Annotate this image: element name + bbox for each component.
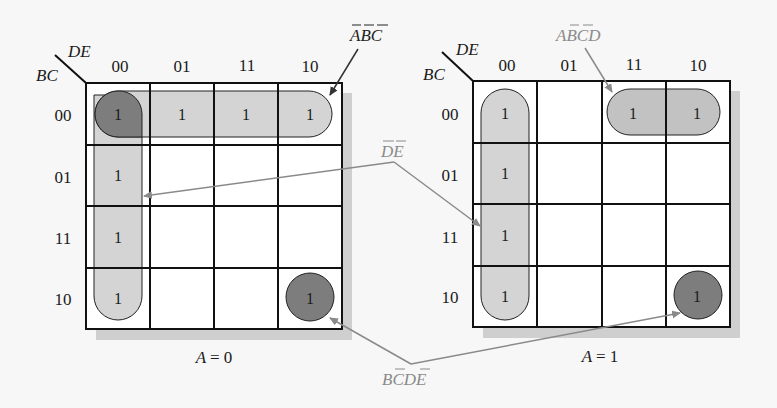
kmap-a1: DE BC 00 01 11 10 00 01 11 10 1 1 1 1 1 … xyxy=(423,40,740,366)
row-header: 10 xyxy=(442,288,459,307)
cell: 1 xyxy=(501,105,509,122)
cell: 1 xyxy=(306,106,314,123)
map-title: A= 0 xyxy=(195,348,233,367)
col-header: 10 xyxy=(302,57,319,76)
col-header: 11 xyxy=(626,55,642,74)
map-title-val: = 0 xyxy=(210,348,232,367)
cell: 1 xyxy=(242,106,250,123)
cell: 1 xyxy=(501,165,509,182)
col-header: 00 xyxy=(112,57,129,76)
column-var-label: DE xyxy=(455,40,479,59)
karnaugh-map-diagram: DE BC 00 01 11 10 00 01 11 10 1 1 1 1 1 … xyxy=(0,0,777,408)
col-header: 01 xyxy=(174,57,191,76)
cell: 1 xyxy=(501,227,509,244)
row-header: 10 xyxy=(55,290,72,309)
cell: 1 xyxy=(306,290,314,307)
map-title-val: = 1 xyxy=(596,347,618,366)
map-title-var: A xyxy=(581,347,593,366)
arrow xyxy=(330,49,358,95)
cell: 1 xyxy=(178,106,186,123)
row-header: 00 xyxy=(442,105,459,124)
column-var-label: DE xyxy=(67,42,91,61)
cell: 1 xyxy=(114,229,122,246)
row-header: 11 xyxy=(55,229,71,248)
col-header: 00 xyxy=(499,56,516,75)
term-label: ABCD xyxy=(555,26,601,45)
col-header: 01 xyxy=(561,56,578,75)
row-header: 11 xyxy=(442,228,458,247)
cell: 1 xyxy=(114,290,122,307)
cell: 1 xyxy=(629,105,637,122)
row-var-label: BC xyxy=(423,65,445,84)
col-header: 10 xyxy=(690,56,707,75)
term-label: ABC xyxy=(349,26,383,45)
cell: 1 xyxy=(114,106,122,123)
group-row00-cols-11-10 xyxy=(607,89,720,135)
cell: 1 xyxy=(501,288,509,305)
row-var-label: BC xyxy=(36,66,58,85)
arrow-left xyxy=(330,318,411,364)
row-header: 01 xyxy=(55,168,72,187)
term-label: BCDE xyxy=(382,370,427,389)
row-header: 01 xyxy=(442,166,459,185)
col-header: 11 xyxy=(239,56,255,75)
kmap-a0: DE BC 00 01 11 10 00 01 11 10 1 1 1 1 1 … xyxy=(36,42,352,367)
cell: 1 xyxy=(114,167,122,184)
cell: 1 xyxy=(693,288,701,305)
map-title-var: A xyxy=(195,348,207,367)
term-label: DE xyxy=(380,142,404,161)
arrow-right xyxy=(394,162,480,226)
map-title: A= 1 xyxy=(581,347,619,366)
cell: 1 xyxy=(693,105,701,122)
row-header: 00 xyxy=(55,106,72,125)
